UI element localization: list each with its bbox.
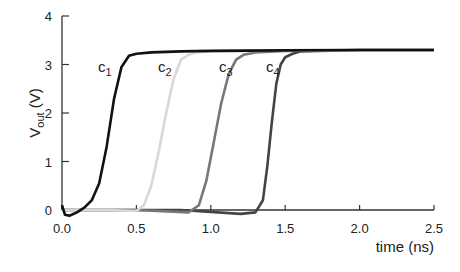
y-tick-label: 4 <box>45 9 52 24</box>
series-c1 <box>62 50 434 216</box>
series-c2 <box>62 50 434 211</box>
x-tick-label: 0.5 <box>127 221 145 236</box>
axes: 012340.00.51.01.52.02.5 <box>45 9 443 236</box>
y-tick-label: 1 <box>45 155 52 170</box>
x-tick-label: 1.5 <box>276 221 294 236</box>
label-c2: c2 <box>158 58 172 78</box>
label-c1: c1 <box>98 58 112 78</box>
curves <box>62 50 434 216</box>
x-axis-label: time (ns) <box>376 238 434 255</box>
x-tick-label: 0.0 <box>53 221 71 236</box>
y-tick-label: 0 <box>45 203 52 218</box>
chart-canvas: 012340.00.51.01.52.02.5 c1c2c3c4 Vout (V… <box>0 0 460 272</box>
series-c4 <box>62 50 434 214</box>
series-c3 <box>62 50 434 212</box>
x-tick-label: 2.0 <box>351 221 369 236</box>
y-axis-label: Vout (V) <box>26 88 46 137</box>
label-c4: c4 <box>266 58 280 78</box>
label-c3: c3 <box>219 58 233 78</box>
y-tick-label: 3 <box>45 58 52 73</box>
x-tick-label: 1.0 <box>202 221 220 236</box>
x-tick-label: 2.5 <box>425 221 443 236</box>
